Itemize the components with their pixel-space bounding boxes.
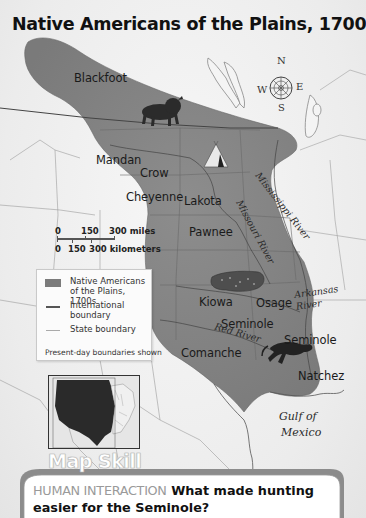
tribe-label-cheyenne: Cheyenne — [126, 190, 183, 204]
map-page: Native Americans of the Plains, 1700s Bl… — [0, 0, 366, 518]
map-scale: 0 150 300 miles 0 150 300 kilometers — [54, 226, 154, 266]
legend-label-international: International boundary — [70, 300, 140, 320]
map-legend: Native Americans of the Plains, 1700s In… — [36, 269, 152, 361]
tribe-label-lakota: Lakota — [184, 194, 222, 208]
compass-e: E — [296, 81, 303, 92]
tribe-label-pawnee: Pawnee — [189, 225, 233, 239]
legend-line-state — [46, 330, 60, 331]
water-label-mexico: Mexico — [281, 426, 321, 439]
map-skill-heading: Map Skill — [48, 450, 141, 472]
legend-label-state: State boundary — [70, 324, 136, 334]
scale-mi-150: 150 — [81, 226, 99, 236]
legend-swatch-plains — [45, 279, 61, 287]
tribe-label-mandan: Mandan — [96, 153, 141, 167]
tribe-label-osage: Osage — [256, 296, 292, 310]
compass-rose-icon — [270, 77, 292, 99]
tribe-label-crow: Crow — [140, 166, 169, 180]
scale-km-300: 300 kilometers — [89, 244, 161, 254]
map-skill-question: HUMAN INTERACTION What made hunting easi… — [33, 482, 343, 516]
inset-locator-map — [48, 375, 140, 449]
scale-km-0: 0 — [55, 244, 61, 254]
scale-km-150: 150 — [68, 244, 86, 254]
legend-note: Present-day boundaries shown — [45, 348, 162, 357]
compass-s: S — [278, 102, 285, 113]
map-title: Native Americans of the Plains, 1700s — [12, 14, 366, 34]
compass-w: W — [257, 84, 267, 95]
compass-n: N — [277, 55, 286, 66]
bison-hide-icon — [211, 271, 264, 291]
tribe-label-seminole-east: Seminole — [284, 333, 337, 347]
tribe-label-natchez: Natchez — [298, 369, 344, 383]
scale-mi-0: 0 — [55, 226, 61, 236]
tribe-label-blackfoot: Blackfoot — [74, 71, 127, 85]
legend-line-international — [46, 306, 60, 308]
scale-mi-300: 300 miles — [109, 226, 155, 236]
tribe-label-comanche: Comanche — [181, 346, 242, 360]
water-label-gulf: Gulf of — [279, 410, 317, 423]
tribe-label-kiowa: Kiowa — [199, 295, 233, 309]
question-category: HUMAN INTERACTION — [33, 483, 167, 498]
